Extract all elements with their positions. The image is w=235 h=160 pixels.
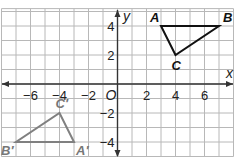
origin-label: O [106, 87, 117, 103]
vertex-label: A′ [75, 143, 89, 158]
x-tick-label: −6 [23, 88, 38, 103]
axes [2, 10, 233, 157]
vertex-label: B [223, 10, 232, 25]
x-tick-label: 2 [143, 88, 150, 103]
y-tick-label: 4 [107, 19, 114, 34]
x-tick-label: 4 [172, 88, 179, 103]
y-tick-label: −4 [100, 135, 115, 150]
y-axis-label: y [122, 8, 131, 24]
x-axis-label: x [225, 65, 234, 81]
vertex-label: C′ [56, 96, 69, 111]
x-axis-right-arrow-icon [226, 81, 233, 87]
x-axis-left-arrow-icon [2, 81, 9, 87]
tick-labels: xy−6−4−224642−2−4O [23, 8, 234, 150]
coordinate-plane: xy−6−4−224642−2−4O ABCA′B′C′ [0, 0, 235, 160]
y-axis-down-arrow-icon [115, 150, 121, 157]
x-tick-label: −2 [81, 88, 96, 103]
y-tick-label: 2 [107, 48, 114, 63]
y-tick-label: −2 [100, 106, 115, 121]
vertex-label: A [149, 10, 159, 25]
vertex-label: C [172, 58, 182, 73]
x-tick-label: 6 [201, 88, 208, 103]
vertex-label: B′ [1, 143, 14, 158]
